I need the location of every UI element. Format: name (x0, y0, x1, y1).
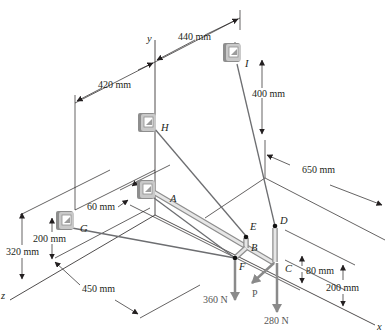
bracket-I (223, 43, 241, 62)
dim-420: 420 mm (98, 79, 131, 90)
dim-200-right: 200 mm (326, 282, 359, 293)
label-B: B (251, 242, 258, 253)
dim-60: 60 mm (87, 201, 115, 212)
bracket-A (137, 180, 155, 199)
dim-440: 440 mm (178, 31, 211, 42)
dim-650: 650 mm (302, 164, 335, 175)
force-280N-label: 280 N (264, 315, 289, 326)
bracket-H (138, 113, 156, 132)
z-axis-label: z (0, 290, 5, 301)
dimension-annotations: 440 mm 420 mm 400 mm 650 mm 60 mm 200 mm… (6, 19, 382, 314)
y-axis-label: y (146, 33, 152, 44)
label-E: E (249, 221, 257, 232)
coordinate-axes: y z x (0, 33, 382, 331)
point-E-marker (244, 235, 249, 240)
force-360N-label: 360 N (203, 294, 228, 305)
x-axis-label: x (376, 321, 382, 331)
dim-200-left: 200 mm (33, 233, 66, 244)
label-G: G (80, 223, 88, 234)
label-D: D (279, 215, 288, 226)
label-H: H (160, 122, 170, 133)
label-C: C (285, 263, 293, 274)
label-I: I (244, 58, 249, 69)
applied-forces: 360 N P 280 N (203, 260, 289, 326)
cable-FA (150, 195, 235, 258)
dim-400: 400 mm (252, 88, 285, 99)
statics-3d-cable-diagram: y z x 440 mm 4 (0, 0, 388, 331)
label-A: A (169, 193, 177, 204)
force-P-label: P (252, 288, 258, 299)
label-F: F (238, 261, 246, 272)
dim-450: 450 mm (82, 283, 115, 294)
point-D-marker (273, 224, 278, 229)
dim-320: 320 mm (6, 246, 39, 257)
point-F-marker (233, 256, 238, 261)
bracket-G (56, 211, 74, 230)
cables (72, 64, 275, 258)
dim-80: 80 mm (306, 265, 334, 276)
